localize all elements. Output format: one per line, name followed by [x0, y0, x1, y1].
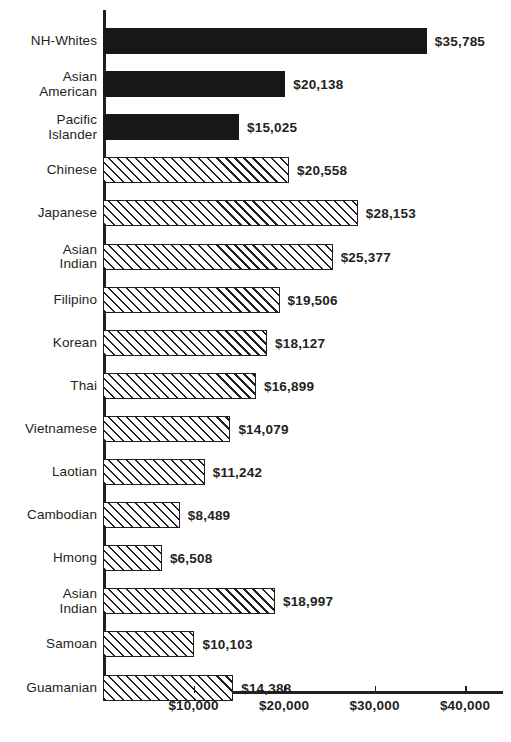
bar: [103, 28, 427, 54]
bar-chart: NH-Whites$35,785Asian American$20,138Pac…: [0, 0, 511, 742]
bar-value-label: $28,153: [366, 206, 416, 221]
bar-row: Pacific Islander$15,025: [0, 114, 511, 140]
category-label: Thai: [70, 379, 97, 394]
category-label: Laotian: [52, 465, 97, 480]
bar-value-label: $18,997: [283, 594, 333, 609]
bar-row: NH-Whites$35,785: [0, 28, 511, 54]
category-label: Asian Indian: [60, 587, 97, 616]
bar-row: Thai$16,899: [0, 373, 511, 399]
bar-row: Asian American$20,138: [0, 71, 511, 97]
bar-value-label: $35,785: [435, 34, 485, 49]
bar: [103, 287, 280, 313]
bar-value-label: $14,388: [241, 680, 291, 695]
bar: [103, 330, 267, 356]
bar-value-label: $10,103: [202, 637, 252, 652]
bar-row: Cambodian$8,489: [0, 502, 511, 528]
bar: [103, 631, 194, 657]
bar-value-label: $18,127: [275, 335, 325, 350]
bar-row: Chinese$20,558: [0, 157, 511, 183]
category-label: Korean: [53, 335, 97, 350]
bar-row: Laotian$11,242: [0, 459, 511, 485]
bar-value-label: $19,506: [288, 292, 338, 307]
category-label: Pacific Islander: [48, 113, 97, 142]
category-label: Hmong: [53, 551, 97, 566]
bar-value-label: $20,558: [297, 163, 347, 178]
bar-value-label: $20,138: [293, 77, 343, 92]
category-label: Filipino: [53, 292, 97, 307]
bar-row: Filipino$19,506: [0, 287, 511, 313]
category-label: Asian Indian: [60, 242, 97, 271]
bar-value-label: $16,899: [264, 378, 314, 393]
category-label: Samoan: [46, 637, 97, 652]
category-label: NH-Whites: [31, 34, 97, 49]
bar-row: Hmong$6,508: [0, 545, 511, 571]
bar: [103, 502, 180, 528]
bar: [103, 545, 162, 571]
bar: [103, 157, 289, 183]
bar-row: Asian Indian$25,377: [0, 244, 511, 270]
bar-value-label: $14,079: [238, 421, 288, 436]
category-label: Chinese: [47, 163, 97, 178]
bar-value-label: $8,489: [188, 508, 231, 523]
bar: [103, 588, 275, 614]
bar-value-label: $15,025: [247, 120, 297, 135]
bar-row: Japanese$28,153: [0, 200, 511, 226]
category-label: Guamanian: [26, 680, 97, 695]
bar-rows: NH-Whites$35,785Asian American$20,138Pac…: [0, 0, 511, 683]
bar: [103, 244, 333, 270]
category-label: Vietnamese: [25, 422, 97, 437]
bar: [103, 416, 230, 442]
bar-row: Korean$18,127: [0, 330, 511, 356]
bar: [103, 459, 205, 485]
bar: [103, 71, 285, 97]
bar: [103, 373, 256, 399]
bar-value-label: $6,508: [170, 551, 213, 566]
bar-row: Vietnamese$14,079: [0, 416, 511, 442]
category-label: Asian American: [39, 70, 97, 99]
bar-row: Guamanian$14,388: [0, 675, 511, 701]
category-label: Japanese: [38, 206, 97, 221]
bar: [103, 200, 358, 226]
category-label: Cambodian: [27, 508, 97, 523]
bar: [103, 675, 233, 701]
bar-row: Asian Indian$18,997: [0, 588, 511, 614]
bar-value-label: $11,242: [213, 465, 262, 480]
bar-value-label: $25,377: [341, 249, 391, 264]
bar-row: Samoan$10,103: [0, 631, 511, 657]
bar: [103, 114, 239, 140]
